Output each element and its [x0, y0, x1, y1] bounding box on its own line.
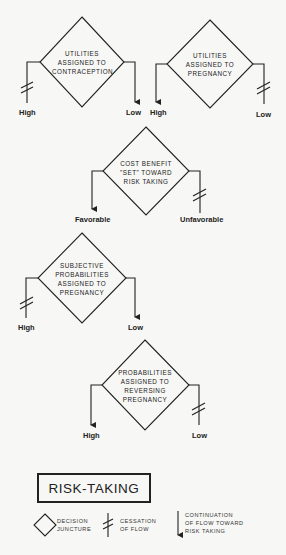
- decision-4-text: SUBJECTIVE PROBABILITIES ASSIGNED TO PRE…: [52, 261, 112, 297]
- d1-right-label: Low: [126, 108, 141, 117]
- line: OF FLOW: [120, 525, 156, 533]
- d2-left-label: High: [150, 108, 167, 117]
- line: UTILITIES: [52, 49, 112, 58]
- line: UTILITIES: [180, 51, 240, 60]
- line: PREGNANCY: [52, 288, 112, 297]
- risk-taking-box: RISK-TAKING: [37, 473, 151, 503]
- line: ASSIGNED TO: [52, 279, 112, 288]
- line: CONTINUATION: [185, 511, 243, 519]
- line: PROBABILITIES: [52, 270, 112, 279]
- d5-left-label: High: [83, 431, 100, 440]
- line: SUBJECTIVE: [52, 261, 112, 270]
- d1-left-label: High: [19, 108, 36, 117]
- decision-2-text: UTILITIES ASSIGNED TO PREGNANCY: [180, 51, 240, 78]
- line: "SET" TOWARD: [116, 168, 176, 177]
- line: ASSIGNED TO: [52, 58, 112, 67]
- diamond-icon: [34, 514, 56, 536]
- line: CESSATION: [120, 517, 156, 525]
- d4-left-label: High: [18, 323, 35, 332]
- line: PREGNANCY: [180, 69, 240, 78]
- decision-3-text: COST BENEFIT "SET" TOWARD RISK TAKING: [116, 159, 176, 186]
- line: JUNCTURE: [57, 525, 91, 533]
- d5-right-label: Low: [192, 431, 207, 440]
- line: COST BENEFIT: [116, 159, 176, 168]
- line: REVERSING: [113, 386, 177, 395]
- flowchart-lines: [0, 0, 286, 555]
- line: ASSIGNED TO: [113, 377, 177, 386]
- d3-left-label: Favorable: [75, 215, 110, 224]
- legend-decision-juncture: DECISION JUNCTURE: [57, 517, 91, 533]
- line: RISK TAKING: [185, 527, 243, 535]
- line: CONTRACEPTION: [52, 67, 112, 76]
- line: RISK TAKING: [116, 177, 176, 186]
- d4-right-label: Low: [128, 323, 143, 332]
- decision-5-text: PROBABILITIES ASSIGNED TO REVERSING PREG…: [113, 368, 177, 404]
- line: PREGNANCY: [113, 395, 177, 404]
- legend-continuation: CONTINUATION OF FLOW TOWARD RISK TAKING: [185, 511, 243, 535]
- line: OF FLOW TOWARD: [185, 519, 243, 527]
- legend-cessation: CESSATION OF FLOW: [120, 517, 156, 533]
- decision-1-text: UTILITIES ASSIGNED TO CONTRACEPTION: [52, 49, 112, 76]
- line: DECISION: [57, 517, 91, 525]
- line: ASSIGNED TO: [180, 60, 240, 69]
- line: PROBABILITIES: [113, 368, 177, 377]
- d2-right-label: Low: [256, 110, 271, 119]
- d3-right-label: Unfavorable: [180, 215, 223, 224]
